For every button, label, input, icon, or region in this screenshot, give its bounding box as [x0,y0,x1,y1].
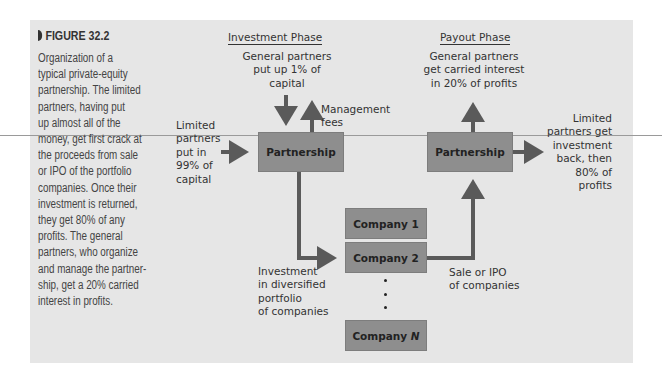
label-line: investment [540,139,612,152]
ellipsis-dot [384,293,387,296]
caption-line: they get 80% of any [38,212,194,228]
figure-marker-icon [38,30,42,41]
ellipsis-dot [384,306,387,309]
caption-line: partnership. The limited [38,82,194,98]
investment-phase-title: Investment Phase [228,31,322,45]
label-line: of companies [449,279,520,292]
label-line: Management [321,103,390,116]
label-line: put up 1% of [228,63,346,76]
caption-line: profits. The general [38,228,194,244]
label-line: General partners [228,50,346,63]
caption-line: partners, who organize [38,244,194,260]
label-line: 80% of [540,166,612,179]
company-1-box: Company 1 [345,208,427,239]
label-line: capital [228,77,346,90]
lp-payout-label: Limited partners get investment back, th… [540,112,612,192]
payout-phase-title: Payout Phase [440,31,510,45]
label-line: portfolio [258,292,329,305]
caption-line: up almost all of the [38,115,194,131]
caption-line: money, get first crack at [38,131,194,147]
caption-line: companies. Once their [38,180,194,196]
partnership-label: Partnership [266,146,335,158]
caption-line: the proceeds from sale [38,147,194,163]
caption-line: typical private-equity [38,66,194,82]
label-line: Limited [176,119,220,132]
company-n-suffix: N [411,330,420,342]
investment-arrow [299,172,333,258]
label-line: 99% of [176,159,220,172]
label-line: get carried interest [414,63,534,76]
gp-carried-interest-label: General partners get carried interest in… [414,50,534,90]
label-line: fees [321,116,390,129]
sale-ipo-label: Sale or IPO of companies [449,266,520,293]
label-line: partners [176,132,220,145]
label-line: partners get [540,125,612,138]
label-line: in diversified [258,278,329,291]
caption-line: ship, get a 20% carried [38,277,194,293]
company-2-box: Company 2 [345,242,427,273]
label-line: in 20% of profits [414,77,534,90]
company-label: Company 1 [353,218,419,230]
caption-line: interest in profits. [38,293,194,309]
partnership-label: Partnership [435,146,504,158]
company-n-box: Company N [345,320,427,351]
investment-portfolio-label: Investment in diversified portfolio of c… [258,265,329,319]
caption-line: or IPO of the portfolio [38,163,194,179]
caption-line: investment is returned, [38,196,194,212]
gp-contribution-label: General partners put up 1% of capital [228,50,346,90]
figure-title: FIGURE 32.2 [38,28,109,43]
label-line: Limited [540,112,612,125]
caption-line: Organization of a [38,50,194,66]
label-line: profits [540,179,612,192]
caption-line: and manage the partner- [38,261,194,277]
company-n-prefix: Company [352,330,410,342]
label-line: Sale or IPO [449,266,520,279]
management-fees-label: Management fees [321,103,390,130]
company-label: Company 2 [353,252,419,264]
company-label: Company N [352,330,419,342]
label-line: Investment [258,265,329,278]
partnership-box-payout: Partnership [427,132,513,172]
label-line: put in [176,146,220,159]
ellipsis-dot [384,279,387,282]
partnership-box-investment: Partnership [258,132,344,172]
caption-line: partners, having put [38,99,194,115]
label-line: General partners [414,50,534,63]
figure-caption: Organization of a typical private-equity… [38,50,194,309]
figure-label: FIGURE 32.2 [45,28,109,43]
label-line: capital [176,173,220,186]
label-line: of companies [258,305,329,318]
sale-ipo-arrow [427,183,473,258]
lp-contribution-label: Limited partners put in 99% of capital [176,119,220,186]
label-line: back, then [540,152,612,165]
